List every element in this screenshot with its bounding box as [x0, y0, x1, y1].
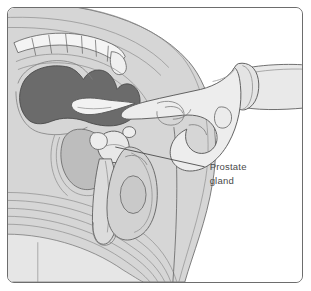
- pubic-bone: [90, 133, 108, 150]
- prostate-exam-illustration: Prostate gland: [8, 8, 302, 282]
- testis: [120, 176, 146, 214]
- thumb: [214, 107, 231, 128]
- seminal-vesicle: [123, 127, 136, 138]
- prostate-label-line1: Prostate: [210, 161, 247, 172]
- illustration-frame: Prostate gland: [7, 7, 303, 283]
- prostate-label-line2: gland: [210, 175, 234, 186]
